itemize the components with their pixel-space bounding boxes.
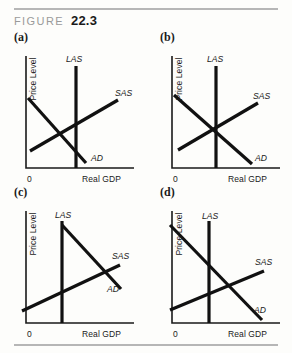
sas-label: SAS bbox=[253, 91, 270, 101]
las-label: LAS bbox=[55, 210, 72, 220]
origin-label: 0 bbox=[173, 174, 178, 184]
figure-page: FIGURE 22.3 (a) Price Level Real GDP 0 L… bbox=[0, 0, 292, 353]
ad-label: AD bbox=[253, 305, 266, 315]
panel-a: (a) Price Level Real GDP 0 LAS SAS AD bbox=[0, 30, 146, 190]
sas-label: SAS bbox=[115, 88, 132, 98]
x-axis-label: Real GDP bbox=[82, 329, 121, 339]
axis-lines bbox=[172, 56, 280, 168]
sas-curve bbox=[170, 271, 264, 310]
sas-label: SAS bbox=[255, 257, 272, 267]
ad-label: AD bbox=[254, 153, 267, 163]
origin-label: 0 bbox=[27, 329, 32, 339]
las-label: LAS bbox=[66, 54, 83, 64]
figure-caption-header: FIGURE 22.3 bbox=[14, 13, 97, 28]
panel-letter: (d) bbox=[160, 185, 175, 200]
ad-curve bbox=[174, 95, 252, 164]
panel-c: (c) Price Level Real GDP 0 LAS SAS AD bbox=[0, 185, 146, 345]
origin-label: 0 bbox=[173, 329, 178, 339]
las-label: LAS bbox=[202, 211, 219, 221]
y-axis-label: Price Level bbox=[28, 41, 38, 117]
panel-c-plot: Price Level Real GDP 0 LAS SAS AD bbox=[8, 203, 138, 333]
panel-letter: (c) bbox=[14, 185, 27, 200]
ad-label: AD bbox=[106, 284, 119, 294]
panel-letter: (b) bbox=[160, 30, 175, 45]
las-label: LAS bbox=[207, 54, 224, 64]
panel-d-plot: Price Level Real GDP 0 LAS SAS AD bbox=[154, 203, 284, 333]
figure-label: FIGURE bbox=[14, 15, 64, 27]
x-axis-label: Real GDP bbox=[228, 174, 267, 184]
sas-curve bbox=[30, 100, 118, 151]
panel-a-plot: Price Level Real GDP 0 LAS SAS AD bbox=[8, 48, 138, 178]
bottom-divider-rule bbox=[14, 344, 278, 346]
panel-d: (d) Price Level Real GDP 0 LAS SAS AD bbox=[146, 185, 292, 345]
y-axis-label: Price Level bbox=[174, 41, 184, 117]
panel-letter: (a) bbox=[14, 30, 28, 45]
top-divider-rule bbox=[14, 8, 278, 10]
origin-label: 0 bbox=[27, 174, 32, 184]
x-axis-label: Real GDP bbox=[228, 329, 267, 339]
ad-label: AD bbox=[90, 153, 103, 163]
y-axis-label: Price Level bbox=[174, 196, 184, 272]
y-axis-label: Price Level bbox=[28, 196, 38, 272]
figure-number: 22.3 bbox=[71, 13, 97, 28]
panel-b: (b) Price Level Real GDP 0 LAS SAS AD bbox=[146, 30, 292, 190]
x-axis-label: Real GDP bbox=[82, 174, 121, 184]
sas-label: SAS bbox=[112, 251, 129, 261]
panel-b-plot: Price Level Real GDP 0 LAS SAS AD bbox=[154, 48, 284, 178]
